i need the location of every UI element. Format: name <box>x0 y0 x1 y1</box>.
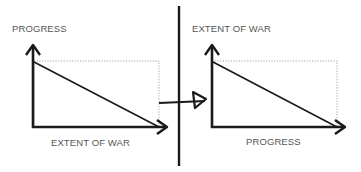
transition-arrow-icon <box>159 92 206 108</box>
right-chart <box>205 45 345 134</box>
right-x-axis-label: PROGRESS <box>246 136 301 147</box>
left-trend-line <box>34 62 159 127</box>
right-y-axis-label: EXTENT OF WAR <box>192 23 271 34</box>
right-trend-line <box>213 62 337 127</box>
left-chart <box>26 45 167 134</box>
left-y-axis-label: PROGRESS <box>12 23 67 34</box>
left-x-axis-label: EXTENT OF WAR <box>51 137 130 148</box>
